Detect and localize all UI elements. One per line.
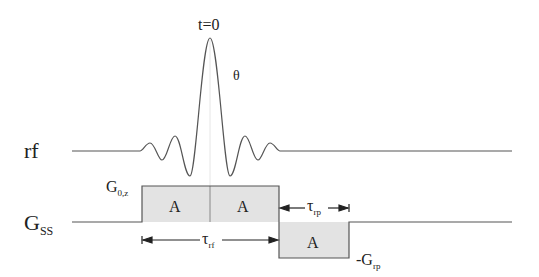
t0-label: t=0 <box>198 16 219 33</box>
pulse-sequence-diagram: t=0 θ rf GSS G0,z A A A τrf τrp -Grp <box>0 0 539 277</box>
neg-grp-amplitude-label: -Grp <box>356 251 381 271</box>
rf-axis-label: rf <box>24 138 39 163</box>
g0z-amplitude-label: G0,z <box>106 178 128 198</box>
flip-angle-theta: θ <box>233 68 240 83</box>
area-a-right: A <box>237 198 249 215</box>
tau-rf-label: τrf <box>202 230 214 250</box>
area-a-left: A <box>169 198 181 215</box>
area-a-refocus: A <box>307 234 319 251</box>
rf-sinc-waveform <box>72 38 512 176</box>
gss-axis-label: GSS <box>24 210 53 238</box>
tau-rp-label: τrp <box>307 197 321 217</box>
